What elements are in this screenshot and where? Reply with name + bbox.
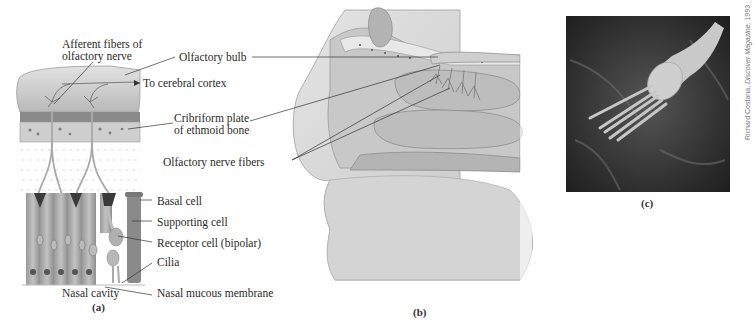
photo-credit: Richard Costana, Discover Magazine, 1993: [744, 5, 751, 140]
label-to-cerebral-cortex: To cerebral cortex: [143, 77, 226, 90]
label-basal-cell: Basal cell: [157, 195, 202, 208]
label-nasal-mucous-membrane: Nasal mucous membrane: [157, 287, 273, 300]
credit-year: 1993: [744, 5, 751, 21]
panel-label-b: (b): [413, 306, 426, 318]
panel-a-illustration: [17, 66, 145, 285]
label-receptor-cell: Receptor cell (bipolar): [157, 237, 261, 250]
credit-source: Discover Magazine,: [744, 22, 751, 83]
panel-b-illustration: [293, 8, 532, 280]
olfactory-anatomy-figure: Afferent fibers of olfactory nerve Olfac…: [0, 0, 755, 327]
credit-author: Richard Costana,: [744, 86, 751, 140]
label-supporting-cell: Supporting cell: [157, 216, 228, 229]
label-olfactory-bulb: Olfactory bulb: [179, 51, 246, 64]
label-nasal-cavity: Nasal cavity: [62, 287, 119, 300]
panel-c-micrograph: [566, 16, 730, 192]
label-olfactory-nerve-fibers: Olfactory nerve fibers: [163, 156, 265, 169]
label-afferent-fibers-line2: olfactory nerve: [62, 50, 132, 63]
panel-label-a: (a): [92, 301, 105, 313]
epithelium-cells: [26, 192, 143, 285]
label-cilia: Cilia: [157, 256, 179, 269]
label-cribriform-line2: of ethmoid bone: [174, 124, 249, 137]
panel-label-c: (c): [641, 197, 653, 209]
